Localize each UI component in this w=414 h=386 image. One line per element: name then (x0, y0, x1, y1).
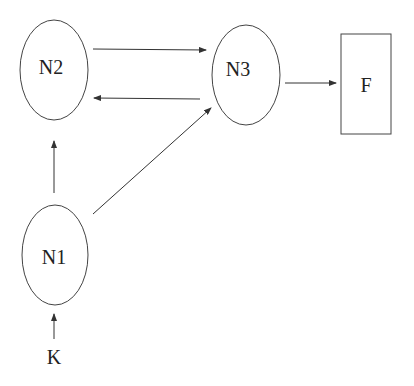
node-f: F (341, 34, 391, 134)
node-f-label: F (360, 74, 371, 96)
node-n1: N1 (22, 205, 88, 305)
node-n3-label: N3 (226, 58, 250, 80)
flow-diagram: N2 N3 N1 F K (0, 0, 414, 386)
edge-n2-to-n3 (93, 49, 206, 50)
input-k-label: K (47, 346, 62, 368)
node-n3: N3 (212, 25, 280, 125)
node-n1-label: N1 (42, 246, 66, 268)
node-n2: N2 (20, 20, 88, 120)
node-n2-label: N2 (39, 56, 63, 78)
edge-n3-to-n2 (94, 98, 200, 99)
edge-n1-to-n3 (93, 108, 211, 214)
